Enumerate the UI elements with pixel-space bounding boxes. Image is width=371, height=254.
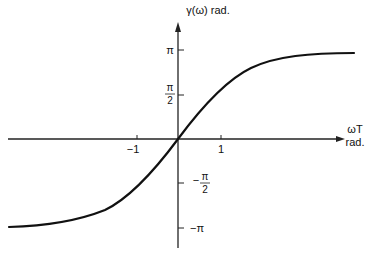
x-axis-title-line2: rad.	[346, 136, 365, 148]
gamma-curve	[9, 53, 354, 227]
y-tick-label-neg-sign: −	[193, 174, 199, 186]
phase-plot: −1 1 π π 2 − π 2 −π γ(ω) rad. ωT rad.	[0, 0, 371, 254]
y-tick-label-pi-half-den: 2	[167, 95, 173, 106]
y-tick-label-pi: π	[166, 44, 174, 56]
x-tick-label-pos1: 1	[218, 143, 224, 155]
y-axis-arrow-icon	[175, 22, 181, 32]
x-axis-title-line1: ωT	[347, 123, 363, 135]
y-tick-label-neg-pi-half-den: 2	[202, 184, 208, 195]
y-tick-label-neg-pi-half-num: π	[202, 171, 209, 182]
x-tick-label-neg1: −1	[127, 143, 140, 155]
y-axis-title: γ(ω) rad.	[186, 4, 229, 16]
y-tick-label-pi-half-num: π	[167, 82, 174, 93]
y-tick-label-neg-pi: −π	[190, 222, 204, 234]
x-axis-arrow-icon	[336, 136, 345, 142]
